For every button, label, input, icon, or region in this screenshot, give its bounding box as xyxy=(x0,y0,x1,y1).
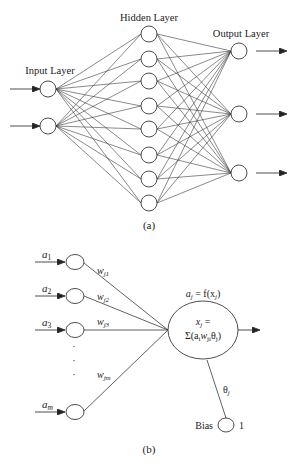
caption-a: (a) xyxy=(143,219,156,232)
output-node xyxy=(231,165,247,181)
input-layer-label: Input Layer xyxy=(25,65,75,76)
network-connection xyxy=(157,173,231,179)
network-connection xyxy=(157,129,231,173)
input-node xyxy=(66,405,84,420)
hidden-node xyxy=(141,26,157,42)
input-node xyxy=(40,81,56,97)
network-connection xyxy=(157,173,231,203)
input-node xyxy=(66,255,84,270)
bias-node xyxy=(218,418,234,432)
hidden-node xyxy=(141,195,157,211)
network-connection xyxy=(157,59,231,114)
layer-nodes xyxy=(40,26,247,211)
input-label-am: am xyxy=(42,398,54,412)
ellipsis-dot: · xyxy=(72,341,75,352)
output-node xyxy=(231,106,247,122)
bias-weight-label: θj xyxy=(223,384,230,397)
network-connection xyxy=(157,155,231,173)
weight-label-wj1: wj1 xyxy=(97,265,109,278)
bias-value: 1 xyxy=(239,420,244,431)
input-node xyxy=(66,289,84,304)
input-label-a1: a1 xyxy=(42,248,52,262)
weight-label-wjm: wjm xyxy=(97,369,111,382)
figure-b: a1 a2 a3 am · · · wj1 wj2 wj3 wjm aj = f… xyxy=(35,248,259,456)
network-connection xyxy=(157,51,231,129)
network-connection xyxy=(56,34,141,126)
network-connection xyxy=(56,89,141,203)
output-node xyxy=(231,43,247,59)
hidden-node xyxy=(141,147,157,163)
network-connection xyxy=(56,34,141,89)
network-connection xyxy=(157,51,231,179)
ellipsis-dot: · xyxy=(72,355,75,366)
figure-a: Hidden Layer Output Layer Input Layer (a… xyxy=(10,12,286,232)
hidden-node xyxy=(141,121,157,137)
network-connection xyxy=(157,114,231,179)
input-label-a2: a2 xyxy=(42,282,52,296)
network-connection xyxy=(56,126,141,129)
activation-label: aj = f(xj) xyxy=(186,288,221,301)
caption-b: (b) xyxy=(143,443,156,456)
network-connection xyxy=(56,89,141,155)
input-node xyxy=(40,118,56,134)
input-label-a3: a3 xyxy=(42,316,52,330)
network-connection xyxy=(157,106,231,114)
neural-network-figure: Hidden Layer Output Layer Input Layer (a… xyxy=(0,0,300,466)
bias-label: Bias xyxy=(195,420,213,431)
weight-label-wj3: wj3 xyxy=(97,316,110,329)
output-layer-label: Output Layer xyxy=(213,28,270,39)
hidden-node xyxy=(141,171,157,187)
hidden-node xyxy=(141,51,157,67)
hidden-node xyxy=(141,73,157,89)
network-connection xyxy=(157,114,231,155)
hidden-layer-label: Hidden Layer xyxy=(120,12,179,23)
ellipsis-dot: · xyxy=(72,369,75,380)
hidden-node xyxy=(141,98,157,114)
input-node xyxy=(66,323,84,338)
network-connection xyxy=(56,126,141,155)
network-connection xyxy=(56,126,141,203)
network-connection xyxy=(157,51,231,81)
